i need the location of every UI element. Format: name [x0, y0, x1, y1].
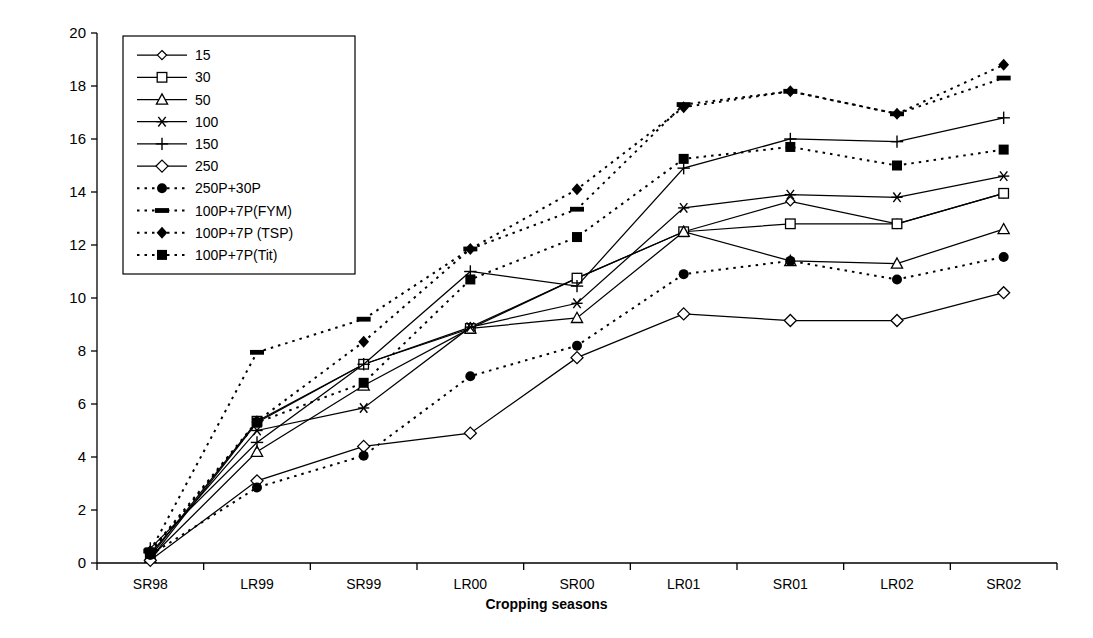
- marker-square-filled: [157, 250, 167, 260]
- chart-figure: Cummulative phosphorus recovery (%) Crop…: [0, 0, 1093, 638]
- x-tick-label-sr00: SR00: [559, 576, 594, 592]
- legend-label-8: 100P+7P (TSP): [195, 225, 293, 241]
- marker-square-open: [157, 73, 167, 83]
- x-tick-label-sr01: SR01: [773, 576, 808, 592]
- marker-circle-filled: [465, 371, 475, 381]
- y-tick-label: 4: [78, 448, 86, 465]
- marker-dash-filled: [997, 76, 1011, 81]
- y-tick-label: 8: [78, 342, 86, 359]
- marker-star: [891, 193, 902, 203]
- marker-triangle-open: [998, 224, 1009, 234]
- series-250p-30p: [145, 252, 1008, 560]
- legend-label-0: 15: [195, 47, 211, 63]
- y-tick-label: 6: [78, 395, 86, 412]
- y-tick-label: 18: [69, 77, 86, 94]
- marker-dash-filled: [357, 317, 371, 322]
- y-tick-label: 20: [69, 24, 86, 41]
- marker-diamond-filled: [572, 183, 583, 195]
- marker-square-filled: [572, 232, 582, 242]
- marker-square-filled: [999, 145, 1009, 155]
- marker-circle-filled: [892, 274, 902, 284]
- y-tick-label: 12: [69, 236, 86, 253]
- x-tick-label-sr98: SR98: [133, 576, 168, 592]
- marker-circle-filled: [157, 183, 167, 193]
- legend-label-1: 30: [195, 69, 211, 85]
- marker-diamond-open: [678, 308, 690, 320]
- x-tick-label-lr00: LR00: [454, 576, 488, 592]
- marker-diamond-open: [464, 427, 476, 439]
- y-tick-label: 2: [78, 501, 86, 518]
- marker-square-filled: [785, 142, 795, 152]
- legend-label-2: 50: [195, 92, 211, 108]
- legend-label-6: 250P+30P: [195, 180, 261, 196]
- marker-diamond-open: [891, 315, 903, 327]
- marker-diamond-open: [998, 287, 1010, 299]
- y-tick-label: 10: [69, 289, 86, 306]
- x-tick-label-lr01: LR01: [667, 576, 701, 592]
- marker-dash-filled: [155, 208, 169, 213]
- marker-square-filled: [252, 418, 262, 428]
- marker-diamond-filled: [998, 59, 1009, 71]
- x-tick-label-sr02: SR02: [986, 576, 1021, 592]
- legend-label-5: 250: [195, 158, 219, 174]
- marker-square-filled: [145, 547, 155, 557]
- marker-square-open: [999, 189, 1009, 199]
- y-tick-label: 0: [78, 554, 86, 571]
- marker-diamond-filled: [358, 336, 369, 348]
- x-tick-label-sr99: SR99: [346, 576, 381, 592]
- marker-diamond-filled: [785, 85, 796, 97]
- y-tick-label: 14: [69, 183, 86, 200]
- marker-square-open: [892, 219, 902, 229]
- legend-label-4: 150: [195, 136, 219, 152]
- marker-circle-filled: [785, 256, 795, 266]
- marker-square-filled: [679, 154, 689, 164]
- y-tick-label: 16: [69, 130, 86, 147]
- chart-plot-area: 02468101214161820SR98LR99SR99LR00SR00LR0…: [0, 0, 1093, 638]
- marker-diamond-open: [358, 440, 370, 452]
- legend: 153050100150250250P+30P100P+7P(FYM)100P+…: [123, 36, 355, 274]
- marker-triangle-open: [571, 312, 582, 322]
- legend-label-9: 100P+7P(Tit): [195, 247, 277, 263]
- marker-circle-filled: [572, 341, 582, 351]
- series-line: [150, 257, 1003, 555]
- marker-dash-filled: [250, 350, 264, 355]
- marker-square-filled: [359, 378, 369, 388]
- marker-square-open: [786, 219, 796, 229]
- x-tick-label-lr99: LR99: [240, 576, 274, 592]
- marker-diamond-open: [571, 352, 583, 364]
- legend-label-7: 100P+7P(FYM): [195, 203, 292, 219]
- marker-circle-filled: [999, 252, 1009, 262]
- marker-plus: [997, 112, 1009, 124]
- marker-diamond-filled: [892, 108, 903, 120]
- marker-square-filled: [892, 161, 902, 171]
- marker-diamond-open: [784, 315, 796, 327]
- marker-plus: [891, 135, 903, 147]
- marker-dash-filled: [570, 207, 584, 212]
- marker-circle-filled: [359, 451, 369, 461]
- marker-circle-filled: [252, 482, 262, 492]
- marker-circle-filled: [679, 269, 689, 279]
- marker-star: [998, 171, 1009, 181]
- marker-square-filled: [465, 274, 475, 284]
- x-tick-label-lr02: LR02: [880, 576, 914, 592]
- legend-label-3: 100: [195, 114, 219, 130]
